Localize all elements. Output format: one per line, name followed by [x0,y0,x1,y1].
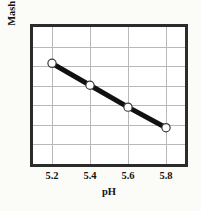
x-tick-label: 5.8 [146,170,186,181]
data-series-line [33,27,185,164]
data-point-marker [48,59,56,67]
y-axis-label: Mash Bed Permeability [0,0,22,46]
x-tick-label: 5.6 [108,170,148,181]
data-point-marker [162,124,170,132]
plot-frame [30,24,188,167]
series-line [52,63,166,127]
x-tick-label: 5.4 [70,170,110,181]
plot-area [33,27,185,164]
chart-figure: Mash Bed Permeability 5.25.45.65.8 pH [0,0,201,211]
x-axis-label: pH [30,186,188,197]
x-tick-label: 5.2 [32,170,72,181]
data-point-marker [124,103,132,111]
data-point-marker [86,81,94,89]
